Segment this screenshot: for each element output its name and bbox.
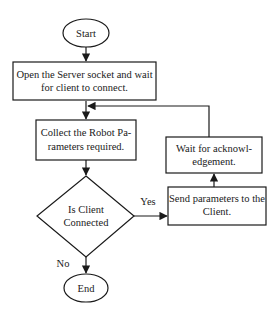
- node-send-params: Send parameters to the Client.: [168, 187, 266, 225]
- node-end: End: [64, 274, 108, 302]
- node-wait-ack: Wait for acknowl- edgement.: [166, 137, 262, 173]
- wait-ack-label-line1: Wait for acknowl-: [176, 143, 253, 154]
- node-collect-params: Collect the Robot Pa- rameters required.: [36, 120, 136, 160]
- open-socket-label-line2: for client to connect.: [41, 82, 128, 93]
- decision-label-line1: Is Client: [68, 204, 104, 215]
- start-label: Start: [76, 28, 96, 39]
- open-socket-box: [13, 62, 156, 100]
- send-params-label-line2: Client.: [203, 206, 231, 217]
- wait-ack-label-line2: edgement.: [192, 156, 235, 167]
- node-is-connected: Is Client Connected: [37, 176, 134, 257]
- send-params-label-line1: Send parameters to the: [169, 193, 265, 204]
- edge-label-no: No: [57, 258, 70, 269]
- collect-params-label-line1: Collect the Robot Pa-: [41, 127, 132, 138]
- end-label: End: [78, 283, 96, 294]
- collect-params-label-line2: rameters required.: [48, 141, 124, 152]
- edge-label-yes: Yes: [140, 196, 155, 207]
- collect-params-box: [36, 120, 136, 160]
- decision-label-line2: Connected: [64, 217, 110, 228]
- open-socket-label-line1: Open the Server socket and wait: [16, 69, 152, 80]
- flowchart: Start Open the Server socket and wait fo…: [0, 0, 279, 317]
- node-open-socket: Open the Server socket and wait for clie…: [13, 62, 156, 100]
- node-start: Start: [63, 19, 109, 47]
